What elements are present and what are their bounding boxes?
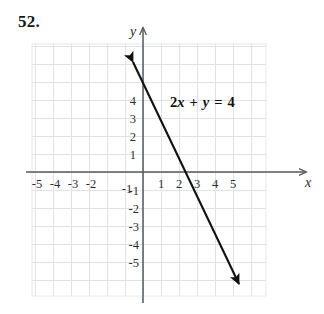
y-tick-2: 2 [130, 130, 136, 144]
x-axis-label: x [304, 175, 312, 190]
figure-panel: 52. -5 -4 [0, 0, 324, 314]
x-tick-5: 5 [230, 177, 236, 191]
x-tick-neg5: -5 [32, 177, 42, 191]
x-tick-4: 4 [212, 177, 219, 191]
equation-constant: 4 [227, 94, 234, 110]
x-tick-2: 2 [176, 177, 182, 191]
equation-coefficient: 2 [170, 94, 177, 110]
equation-equals: = [214, 94, 222, 110]
grid [32, 44, 266, 296]
y-axis-label: y [128, 24, 137, 39]
y-tick-3: 3 [130, 112, 136, 126]
y-tick-1: 1 [130, 148, 136, 162]
x-tick-neg3: -3 [68, 177, 78, 191]
y-tick-neg1: -1 [129, 184, 139, 198]
coordinate-plane: -5 -4 -3 -2 -1 1 2 3 4 5 4 3 2 1 -1 -2 -… [0, 0, 324, 314]
y-tick-4: 4 [130, 94, 137, 108]
y-tick-neg2: -2 [129, 202, 139, 216]
equation-plus: + [190, 94, 198, 110]
equation-y-var: y [201, 94, 210, 110]
x-tick-3: 3 [194, 177, 200, 191]
equation-x-var: x [176, 94, 184, 110]
x-tick-1: 1 [158, 177, 164, 191]
x-tick-neg2: -2 [86, 177, 96, 191]
y-tick-neg5: -5 [129, 256, 139, 270]
y-tick-neg3: -3 [129, 220, 139, 234]
x-tick-neg4: -4 [50, 177, 61, 191]
y-tick-neg4: -4 [129, 238, 140, 252]
